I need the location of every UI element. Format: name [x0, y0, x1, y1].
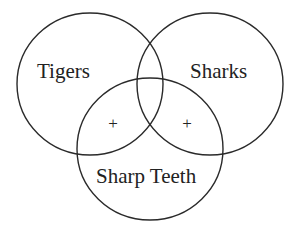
tigers-label: Tigers: [37, 59, 90, 83]
venn-diagram: Tigers Sharks Sharp Teeth + +: [0, 0, 299, 235]
sharp-teeth-label: Sharp Teeth: [96, 164, 197, 188]
tigers-circle: [17, 13, 163, 155]
plus-marker-right: +: [182, 114, 192, 133]
sharks-circle: [137, 13, 283, 155]
sharp-teeth-circle: [77, 78, 223, 220]
sharks-label: Sharks: [190, 59, 247, 83]
plus-marker-left: +: [108, 114, 118, 133]
